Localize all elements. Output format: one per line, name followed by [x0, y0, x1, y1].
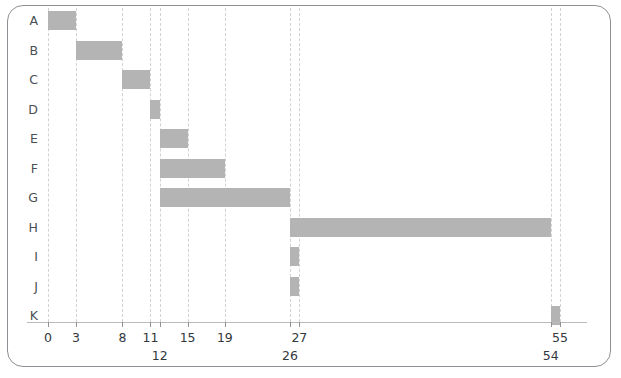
x-axis-tick-label: 19	[217, 330, 233, 345]
x-axis-tick-label: 3	[72, 330, 80, 345]
x-axis-tick-label: 55	[552, 330, 568, 345]
x-axis-tick	[551, 322, 552, 327]
x-axis-tick-label: 26	[282, 348, 298, 363]
x-axis-tick	[225, 322, 226, 327]
x-axis-line	[27, 322, 587, 323]
task-bar[interactable]	[160, 159, 225, 178]
x-axis-tick-label: 11	[142, 330, 158, 345]
x-axis-tick	[560, 322, 561, 327]
x-axis-tick	[48, 322, 49, 327]
x-axis-tick	[299, 322, 300, 327]
category-label: J	[34, 277, 38, 296]
task-bar[interactable]	[290, 218, 551, 237]
task-bar[interactable]	[122, 70, 150, 89]
x-axis-tick-label: 27	[291, 330, 307, 345]
x-axis-tick-label: 8	[118, 330, 126, 345]
x-axis-tick	[188, 322, 189, 327]
task-bar[interactable]	[48, 11, 76, 30]
category-label: A	[29, 11, 38, 30]
category-label: C	[29, 70, 38, 89]
category-label: G	[28, 188, 38, 207]
task-bars-layer	[48, 8, 560, 322]
gridline	[560, 8, 561, 322]
x-axis-tick-label: 15	[180, 330, 196, 345]
x-axis-tick	[122, 322, 123, 327]
task-bar[interactable]	[160, 188, 290, 207]
category-label: F	[31, 159, 38, 178]
task-bar[interactable]	[76, 41, 123, 60]
task-bar[interactable]	[290, 247, 299, 266]
category-label: H	[29, 218, 38, 237]
task-bar[interactable]	[150, 100, 159, 119]
x-axis-tick	[150, 322, 151, 327]
x-axis-tick-label: 12	[152, 348, 168, 363]
category-label: B	[29, 41, 38, 60]
x-axis-tick-label: 54	[543, 348, 559, 363]
category-label: D	[28, 100, 38, 119]
task-bar[interactable]	[160, 129, 188, 148]
x-axis-tick	[290, 322, 291, 327]
category-label: E	[30, 129, 38, 148]
plot-area: ABCDEFGHIJK	[48, 8, 560, 322]
x-axis-tick-label: 0	[44, 330, 52, 345]
x-axis-tick	[76, 322, 77, 327]
gantt-chart-figure: ABCDEFGHIJK 0381112151926275455	[0, 0, 621, 378]
x-axis-tick	[160, 322, 161, 327]
task-bar[interactable]	[290, 277, 299, 296]
category-label: I	[34, 247, 38, 266]
